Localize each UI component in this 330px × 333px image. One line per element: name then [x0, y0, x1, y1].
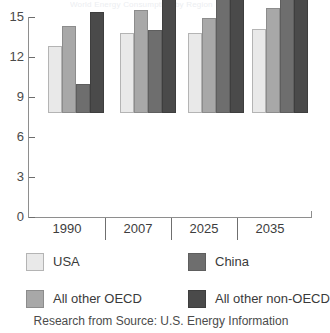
- x-axis-label-1990: 1990: [37, 221, 97, 237]
- y-tick-label-9: 9: [2, 90, 24, 103]
- y-tick-15: [29, 17, 35, 18]
- bar-group-2025: [188, 0, 244, 113]
- bar-2025-china: [216, 0, 230, 113]
- bar-2025-usa: [188, 33, 202, 113]
- bar-group-2007: [120, 0, 176, 113]
- bar-group-1990: [48, 12, 104, 113]
- category-separator-1: [105, 218, 106, 240]
- bar-1990-all-other-non-oecd: [90, 12, 104, 113]
- y-tick-9: [29, 97, 35, 98]
- bar-2007-usa: [120, 33, 134, 113]
- x-axis-label-2007: 2007: [108, 221, 168, 237]
- legend-swatch-nonoecd: [188, 290, 206, 308]
- legend-item-all-other-non-oecd[interactable]: All other non-OECD: [188, 290, 330, 308]
- legend-label-usa: USA: [53, 255, 80, 269]
- bar-2025-all-other-non-oecd: [230, 0, 244, 113]
- legend-swatch-usa: [26, 253, 44, 271]
- bar-2007-china: [148, 30, 162, 113]
- y-tick-label-12: 12: [2, 50, 24, 63]
- bar-1990-all-other-oecd: [62, 26, 76, 113]
- bar-2025-all-other-oecd: [202, 18, 216, 113]
- bar-2035-usa: [252, 29, 266, 113]
- legend-item-usa[interactable]: USA: [26, 253, 80, 271]
- y-tick-12: [29, 57, 35, 58]
- x-axis-label-2035: 2035: [240, 221, 300, 237]
- legend-swatch-oecd: [26, 290, 44, 308]
- y-tick-3: [29, 177, 35, 178]
- y-axis-line: [28, 17, 29, 218]
- legend-item-china[interactable]: China: [188, 253, 249, 271]
- bar-1990-china: [76, 84, 90, 113]
- y-tick-0: [29, 217, 35, 218]
- legend-item-all-other-oecd[interactable]: All other OECD: [26, 290, 142, 308]
- y-tick-6: [29, 137, 35, 138]
- bar-1990-usa: [48, 46, 62, 113]
- y-tick-label-3: 3: [2, 170, 24, 183]
- legend-label-china: China: [215, 255, 249, 269]
- legend-swatch-china: [188, 253, 206, 271]
- x-axis-endcap: [311, 211, 312, 218]
- category-separator-2: [171, 218, 172, 240]
- chart-legend: USA China All other OECD All other non-O…: [0, 247, 322, 309]
- y-tick-label-15: 15: [2, 10, 24, 23]
- bar-2007-all-other-non-oecd: [162, 0, 176, 113]
- bar-2035-all-other-oecd: [266, 8, 280, 113]
- bar-group-2035: [252, 0, 308, 113]
- legend-label-oecd: All other OECD: [53, 292, 142, 306]
- x-axis-label-2025: 2025: [174, 221, 234, 237]
- y-tick-label-0: 0: [2, 210, 24, 223]
- y-tick-label-6: 6: [2, 130, 24, 143]
- plot-area: 15 12 9 6 3 0 1990 2007 2025 2035: [0, 0, 322, 228]
- source-note: Research from Source: U.S. Energy Inform…: [0, 314, 322, 329]
- bar-2035-china: [280, 0, 294, 113]
- bar-2007-all-other-oecd: [134, 10, 148, 113]
- legend-label-nonoecd: All other non-OECD: [215, 292, 330, 306]
- bar-2035-all-other-non-oecd: [294, 0, 308, 113]
- category-separator-3: [237, 218, 238, 240]
- x-axis-line: [28, 217, 312, 218]
